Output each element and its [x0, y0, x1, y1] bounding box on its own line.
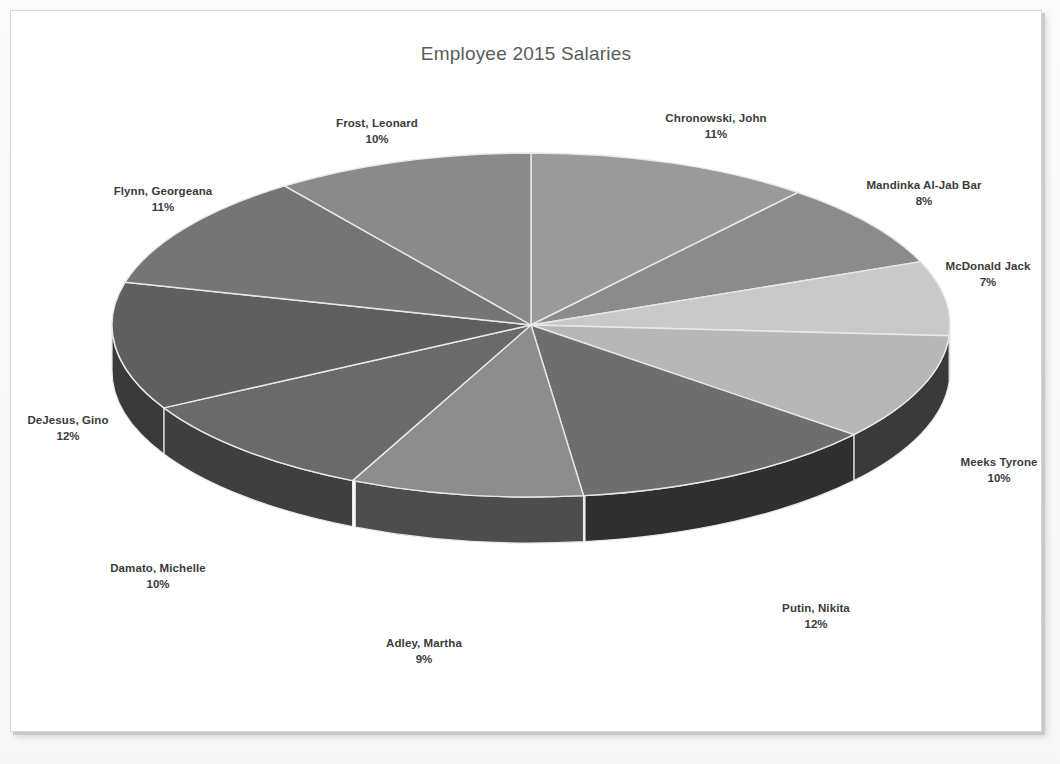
pie-slice-label: Putin, Nikita12% — [706, 601, 926, 632]
pie-slice-label-percent: 11% — [53, 200, 273, 216]
chart-page: Employee 2015 Salaries Chronowski, John1… — [0, 0, 1060, 764]
pie-slice-label-name: McDonald Jack — [878, 259, 1060, 275]
pie-slice-label-name: Putin, Nikita — [706, 601, 926, 617]
pie-slice-label: Damato, Michelle10% — [48, 561, 268, 592]
pie-slice-label: Adley, Martha9% — [314, 636, 534, 667]
pie-slice-label-percent: 11% — [606, 127, 826, 143]
pie-slice-label: DeJesus, Gino12% — [0, 413, 178, 444]
pie-slice-label-percent: 10% — [889, 471, 1060, 487]
pie-slice-label-name: DeJesus, Gino — [0, 413, 178, 429]
pie-slice-label: Flynn, Georgeana11% — [53, 184, 273, 215]
pie-slice-label: Mandinka Al-Jab Bar8% — [814, 178, 1034, 209]
pie-slice-label-name: Meeks Tyrone — [889, 455, 1060, 471]
pie-slice-label-name: Adley, Martha — [314, 636, 534, 652]
pie-slice-label: Chronowski, John11% — [606, 111, 826, 142]
pie-slice-label-percent: 12% — [706, 617, 926, 633]
pie-slice-label-percent: 7% — [878, 275, 1060, 291]
pie-slice-label-name: Mandinka Al-Jab Bar — [814, 178, 1034, 194]
pie-slice-label: Meeks Tyrone10% — [889, 455, 1060, 486]
pie-slice-label-percent: 9% — [314, 652, 534, 668]
pie-slice-label-name: Damato, Michelle — [48, 561, 268, 577]
pie-slice-label-percent: 10% — [267, 132, 487, 148]
pie-slice-label-percent: 12% — [0, 429, 178, 445]
pie-slice-label-name: Flynn, Georgeana — [53, 184, 273, 200]
pie-slice-label-name: Frost, Leonard — [267, 116, 487, 132]
pie-slice-label-name: Chronowski, John — [606, 111, 826, 127]
pie-slice-label-percent: 8% — [814, 194, 1034, 210]
pie-slice-label: Frost, Leonard10% — [267, 116, 487, 147]
pie-slice-label-percent: 10% — [48, 577, 268, 593]
pie-slice-label: McDonald Jack7% — [878, 259, 1060, 290]
